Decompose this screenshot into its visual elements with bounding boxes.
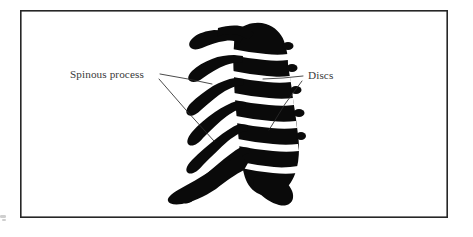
spine-illustration-svg: Spinous process Discs	[0, 0, 473, 237]
articular-facet-bump	[294, 109, 305, 117]
articular-facet-bump	[296, 132, 306, 140]
label-discs: Discs	[308, 69, 333, 81]
scan-artifact-speck	[0, 215, 6, 218]
scan-artifact-speck	[2, 219, 6, 221]
figure-container: Spinous process Discs	[0, 0, 473, 237]
label-spinous-process: Spinous process	[70, 68, 144, 80]
articular-facet-bump	[291, 86, 302, 94]
articular-facet-bump	[287, 64, 298, 72]
articular-facet-bump	[283, 42, 294, 50]
